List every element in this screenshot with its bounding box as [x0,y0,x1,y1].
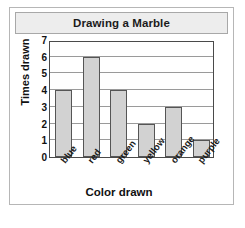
bar [83,57,100,157]
y-axis-tick-labels: 01234567 [30,41,47,158]
y-axis-tick-label: 3 [41,103,47,113]
y-axis-tick-label: 1 [41,136,47,146]
y-axis-tick-label: 4 [41,86,47,96]
chart-title: Drawing a Marble [73,17,170,29]
chart-figure: Drawing a Marble Times drawn 01234567 bl… [9,7,234,205]
y-axis-tick-label: 7 [41,36,47,46]
y-axis-tick-label: 6 [41,53,47,63]
x-axis-title: Color drawn [10,186,228,198]
y-axis-tick-label: 2 [41,120,47,130]
y-axis-tick-label: 0 [41,153,47,163]
chart-title-banner: Drawing a Marble [15,12,228,34]
y-axis-tick-label: 5 [41,69,47,79]
